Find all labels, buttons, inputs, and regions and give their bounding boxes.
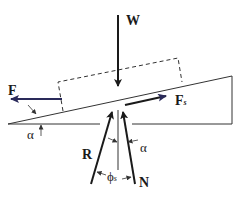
resultant-label: R: [82, 148, 92, 162]
block-outline-dashed: [58, 58, 182, 111]
applied-force-label: F: [8, 84, 17, 98]
friction-force-subscript: s: [184, 98, 187, 107]
phi-pointer-left: [97, 172, 106, 175]
alpha-pointer-left: [108, 138, 117, 142]
incline-free-body-diagram: W F Fs α α R N ϕs: [0, 0, 247, 197]
phi-pointer-right: [122, 177, 131, 179]
incline-angle-label: α: [27, 128, 34, 141]
incline-angle-pointer: [28, 105, 36, 114]
friction-angle-symbol: ϕ: [107, 169, 114, 184]
normal-label: N: [139, 176, 149, 190]
friction-force-symbol: F: [175, 93, 184, 108]
friction-angle-subscript: s: [114, 174, 117, 183]
friction-angle-label: ϕs: [107, 170, 117, 183]
normal-arrow: [123, 112, 135, 184]
weight-label: W: [126, 14, 140, 28]
alpha-pointer-right: [128, 140, 138, 142]
friction-force-label: Fs: [175, 92, 187, 108]
diagram-lines: [0, 0, 247, 197]
normal-angle-label: α: [140, 141, 147, 154]
